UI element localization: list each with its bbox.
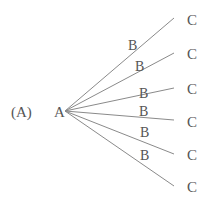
leaf-node-label: C [187, 46, 197, 62]
branch-mid-label: B [135, 59, 144, 74]
tree-svg: (A) A BCBCBCBCBCBC [0, 0, 202, 212]
leaf-node-label: C [187, 114, 197, 130]
leaf-node-label: C [187, 12, 197, 28]
branch-edge [65, 18, 174, 111]
diagram-label: (A) [11, 104, 32, 121]
tree-diagram: (A) A BCBCBCBCBCBC [0, 0, 202, 212]
branch-edge [65, 53, 174, 111]
branch-edge [65, 111, 174, 154]
leaf-node-label: C [187, 81, 197, 97]
leaf-node-label: C [187, 147, 197, 163]
branch-mid-label: B [139, 104, 148, 119]
branch-edge [65, 88, 174, 111]
branch-mid-label: B [140, 148, 149, 163]
root-node-label: A [54, 104, 65, 120]
branch-mid-label: B [139, 86, 148, 101]
branch-edge [65, 111, 174, 186]
branches: BCBCBCBCBCBC [65, 12, 197, 195]
branch-mid-label: B [140, 125, 149, 140]
branch-mid-label: B [128, 38, 137, 53]
leaf-node-label: C [187, 179, 197, 195]
branch-edge [65, 111, 174, 120]
